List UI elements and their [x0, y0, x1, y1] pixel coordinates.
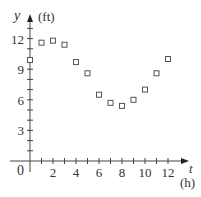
y-axis-unit: (ft): [38, 9, 55, 24]
x-tick-label: 8: [119, 165, 126, 180]
data-point-square-icon: [108, 100, 113, 105]
data-point-square-icon: [39, 40, 44, 45]
x-tick-label: 12: [162, 165, 175, 180]
data-point-square-icon: [74, 60, 79, 65]
x-axis-label: t: [189, 161, 193, 176]
data-point-square-icon: [51, 38, 56, 43]
y-tick-label: 9: [18, 62, 25, 77]
data-point-square-icon: [62, 42, 67, 47]
origin-label: 0: [17, 163, 24, 178]
data-point-square-icon: [166, 57, 171, 62]
tick-labels: 2468101236912: [11, 32, 175, 180]
data-point-square-icon: [131, 97, 136, 102]
x-tick-label: 6: [96, 165, 103, 180]
scatter-chart: 2468101236912 y (ft) t (h) 0: [0, 0, 201, 197]
x-tick-label: 4: [73, 165, 80, 180]
y-axis-arrow-icon: [27, 14, 33, 22]
y-axis-label: y: [12, 8, 21, 23]
data-point-square-icon: [120, 103, 125, 108]
x-tick-label: 2: [50, 165, 57, 180]
data-point-square-icon: [154, 71, 159, 76]
x-axis-unit: (h): [180, 175, 195, 190]
data-point-square-icon: [97, 92, 102, 97]
y-tick-label: 12: [11, 32, 24, 47]
x-axis-arrow-icon: [181, 158, 189, 164]
data-point-square-icon: [28, 58, 33, 63]
data-point-square-icon: [85, 71, 90, 76]
data-point-square-icon: [143, 87, 148, 92]
y-tick-label: 3: [18, 123, 25, 138]
x-tick-label: 10: [139, 165, 152, 180]
y-tick-label: 6: [18, 93, 25, 108]
data-points: [28, 38, 171, 108]
